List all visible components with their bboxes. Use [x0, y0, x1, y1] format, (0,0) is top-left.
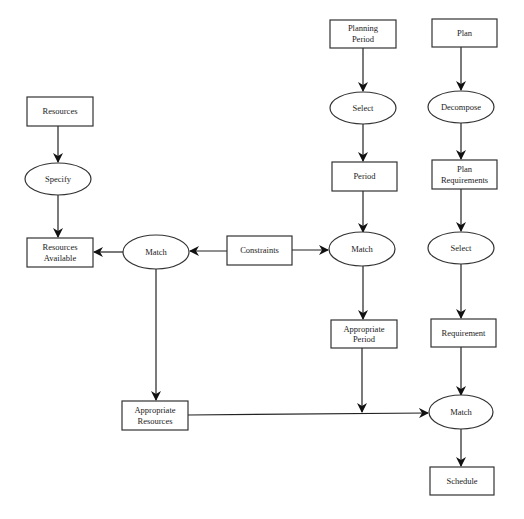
- node-select-mid: Select: [330, 92, 396, 124]
- node-label: Plan: [457, 28, 473, 38]
- node-plan: Plan: [432, 19, 497, 47]
- node-label: Match: [450, 407, 472, 417]
- node-label-line-2: Period: [353, 334, 376, 344]
- node-label-line-2: Resources: [138, 416, 173, 426]
- node-label: Match: [351, 244, 373, 254]
- node-label: Specify: [45, 174, 72, 184]
- node-plan-requirements: Plan Requirements: [432, 160, 497, 189]
- node-label: Requirement: [442, 328, 487, 338]
- node-label-line-1: Appropriate: [134, 405, 175, 415]
- node-requirement: Requirement: [431, 319, 496, 347]
- node-match-left: Match: [123, 235, 189, 269]
- node-label-line-1: Planning: [348, 23, 379, 33]
- node-select-right: Select: [428, 232, 494, 264]
- node-label-line-1: Appropriate: [343, 324, 384, 334]
- node-planning-period: Planning Period: [330, 20, 396, 48]
- node-label-line-2: Requirements: [441, 175, 488, 185]
- node-label: Decompose: [441, 102, 481, 112]
- node-label: Schedule: [446, 476, 477, 486]
- node-match-bottom: Match: [429, 395, 493, 429]
- edge-appropriate-resources-to-match-bottom: [188, 413, 428, 415]
- node-resources-available: Resources Available: [27, 238, 93, 267]
- data-flow-diagram: Resources Specify Resources Available Ma…: [0, 0, 524, 519]
- node-label-line-1: Resources: [43, 242, 78, 252]
- node-period: Period: [332, 162, 397, 191]
- node-label-line-2: Available: [44, 253, 77, 263]
- node-label: Select: [353, 103, 374, 113]
- node-label-line-1: Plan: [457, 164, 473, 174]
- node-label: Resources: [43, 106, 78, 116]
- node-resources: Resources: [27, 97, 93, 126]
- node-label: Select: [451, 243, 472, 253]
- node-specify: Specify: [25, 163, 91, 195]
- node-appropriate-period: Appropriate Period: [331, 320, 397, 348]
- node-constraints: Constraints: [227, 236, 292, 265]
- node-label: Constraints: [240, 245, 279, 255]
- node-label-line-2: Period: [352, 34, 375, 44]
- node-appropriate-resources: Appropriate Resources: [122, 401, 188, 430]
- node-match-mid: Match: [329, 232, 395, 266]
- node-schedule: Schedule: [430, 467, 494, 495]
- node-label: Period: [353, 171, 376, 181]
- node-label: Match: [145, 247, 167, 257]
- node-decompose: Decompose: [428, 91, 494, 123]
